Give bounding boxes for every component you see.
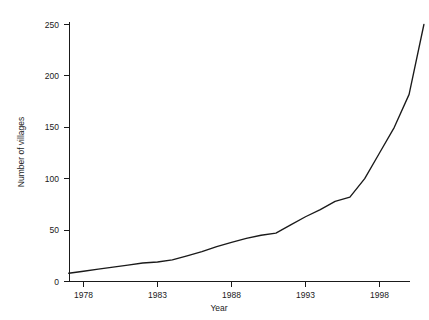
y-tick-label-150: 150	[45, 122, 59, 132]
y-tick-label-200: 200	[45, 71, 59, 81]
y-tick-label-0: 0	[54, 277, 59, 287]
y-tick-label-250: 250	[45, 20, 59, 30]
line-chart-svg: 0 50 100 150 200 250 1978 1983 1988 1993…	[0, 0, 429, 320]
y-tick-marks	[64, 25, 70, 282]
y-tick-label-50: 50	[50, 225, 60, 235]
x-tick-label-1978: 1978	[74, 290, 93, 300]
x-tick-label-1983: 1983	[148, 290, 167, 300]
x-axis-title: Year	[210, 303, 227, 313]
x-tick-marks	[84, 282, 380, 288]
x-tick-label-1988: 1988	[222, 290, 241, 300]
chart-figure: 0 50 100 150 200 250 1978 1983 1988 1993…	[0, 0, 429, 320]
x-tick-label-1993: 1993	[296, 290, 315, 300]
y-axis-title: Number of villages	[16, 117, 26, 187]
x-tick-label-1998: 1998	[370, 290, 389, 300]
data-series-line	[69, 25, 424, 274]
y-tick-label-100: 100	[45, 174, 59, 184]
